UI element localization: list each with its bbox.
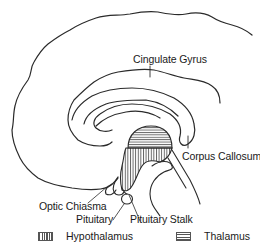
thalamus-region	[128, 126, 172, 148]
label-optic-chiasma: Optic Chiasma	[39, 200, 107, 212]
brainstem-curve	[150, 162, 172, 217]
legend-hypothalamus: Hypothalamus	[38, 230, 133, 242]
label-pituitary: Pituitary	[76, 213, 113, 225]
label-cingulate-gyrus: Cingulate Gyrus	[133, 53, 207, 65]
label-pituitary-stalk: Pituitary Stalk	[130, 213, 193, 225]
vertical-hatch-swatch-icon	[38, 232, 53, 241]
legend-label: Thalamus	[204, 230, 250, 242]
legend-label: Hypothalamus	[66, 230, 133, 242]
label-corpus-callosum: Corpus Callosum	[182, 150, 260, 162]
legend-thalamus: Thalamus	[176, 230, 250, 242]
hypothalamus-region	[121, 148, 173, 191]
horizontal-hatch-swatch-icon	[176, 232, 191, 241]
